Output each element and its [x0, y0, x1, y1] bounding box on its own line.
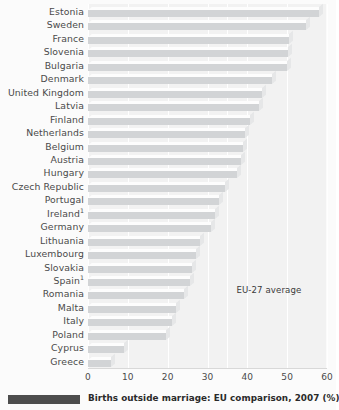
footnote-marker: 1: [80, 274, 84, 281]
category-label: Hungary: [0, 167, 84, 178]
bar-front-face: [88, 50, 288, 57]
bar-side-face: [243, 138, 247, 151]
bar: [88, 61, 287, 73]
chart-row: Estonia: [0, 6, 336, 20]
x-tick-10: 10: [122, 372, 134, 382]
bar-front-face: [88, 64, 287, 71]
bar: [88, 343, 124, 355]
category-label: Austria: [0, 154, 84, 165]
chart-row: Latvia: [0, 100, 336, 114]
bar-side-face: [196, 246, 200, 259]
bar: [88, 209, 215, 221]
chart-row: Germany: [0, 221, 336, 235]
bar: [88, 115, 250, 127]
bar: [88, 303, 176, 315]
bar-front-face: [88, 10, 319, 17]
bar-side-face: [211, 219, 215, 232]
bar-side-face: [250, 111, 254, 124]
chart-row: Slovakia: [0, 262, 336, 276]
category-label: Bulgaria: [0, 60, 84, 71]
bar-front-face: [88, 77, 272, 84]
bar: [88, 168, 237, 180]
bar-front-face: [88, 333, 166, 340]
bar: [88, 47, 288, 59]
bar-front-face: [88, 198, 219, 205]
chart-row: Austria: [0, 154, 336, 168]
bar-side-face: [237, 165, 241, 178]
bar-front-face: [88, 239, 200, 246]
bar-front-face: [88, 319, 172, 326]
chart-row: Portugal: [0, 194, 336, 208]
bar-front-face: [88, 306, 176, 313]
bar: [88, 155, 241, 167]
eu-average-label: EU-27 average: [236, 285, 301, 295]
chart-row: Ireland1: [0, 208, 336, 222]
bar-side-face: [225, 179, 229, 192]
category-label: Belgium: [0, 141, 84, 152]
category-label: Poland: [0, 329, 84, 340]
bar-front-face: [88, 131, 245, 138]
chart-row: Slovenia: [0, 46, 336, 60]
bar-side-face: [287, 58, 291, 71]
bar-side-face: [306, 17, 310, 30]
bar-front-face: [88, 292, 184, 299]
chart-row: Finland: [0, 114, 336, 128]
chart-row: Malta: [0, 302, 336, 316]
chart-row: United Kingdom: [0, 87, 336, 101]
category-label: Estonia: [0, 6, 84, 17]
chart-row: Denmark: [0, 73, 336, 87]
bar: [88, 195, 219, 207]
bar-side-face: [190, 273, 194, 286]
bar: [88, 289, 184, 301]
bar: [88, 88, 262, 100]
bar-front-face: [88, 212, 215, 219]
bar-side-face: [272, 71, 276, 84]
category-label: Italy: [0, 315, 84, 326]
bar-side-face: [215, 206, 219, 219]
plot-area: EstoniaSwedenFranceSloveniaBulgariaDenma…: [0, 0, 336, 372]
bar: [88, 142, 243, 154]
bar-side-face: [289, 31, 293, 44]
chart-row: Belgium: [0, 141, 336, 155]
bar-side-face: [166, 327, 170, 340]
bar-front-face: [88, 23, 306, 30]
category-label: France: [0, 33, 84, 44]
x-axis-baseline: [88, 368, 327, 369]
category-label: Malta: [0, 302, 84, 313]
bar-side-face: [262, 85, 266, 98]
category-label: Lithuania: [0, 235, 84, 246]
bar-front-face: [88, 360, 111, 367]
chart-row: Luxembourg: [0, 248, 336, 262]
figure-caption: Births outside marriage: EU comparison, …: [0, 390, 336, 410]
category-label: Germany: [0, 221, 84, 232]
chart-row: Czech Republic: [0, 181, 336, 195]
category-label: United Kingdom: [0, 87, 84, 98]
bar-front-face: [88, 91, 262, 98]
bar: [88, 34, 289, 46]
bar-front-face: [88, 279, 190, 286]
bar-side-face: [241, 152, 245, 165]
bar-front-face: [88, 252, 196, 259]
category-label: Sweden: [0, 19, 84, 30]
category-label: Portugal: [0, 194, 84, 205]
bar-front-face: [88, 225, 211, 232]
bar-side-face: [184, 286, 188, 299]
bar: [88, 236, 200, 248]
x-tick-30: 30: [202, 372, 214, 382]
bar-side-face: [172, 313, 176, 326]
chart-row: France: [0, 33, 336, 47]
bar: [88, 7, 319, 19]
chart-row: Poland: [0, 329, 336, 343]
footnote-marker: 1: [80, 207, 84, 214]
category-label: Spain1: [0, 275, 84, 286]
bar-side-face: [192, 259, 196, 272]
x-tick-20: 20: [162, 372, 174, 382]
caption-swatch-icon: [8, 395, 80, 404]
x-tick-50: 50: [281, 372, 293, 382]
bar-front-face: [88, 185, 225, 192]
category-label: Czech Republic: [0, 181, 84, 192]
bar-side-face: [259, 98, 263, 111]
bar: [88, 101, 259, 113]
bar-side-face: [124, 340, 128, 353]
